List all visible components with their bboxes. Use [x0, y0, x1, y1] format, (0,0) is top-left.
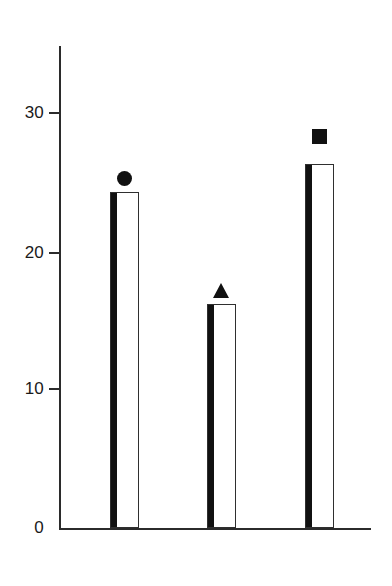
markers-layer	[0, 0, 392, 586]
bar-chart-figure: 30 20 10 0	[0, 0, 392, 586]
marker-square-icon	[312, 129, 327, 144]
plot-area: 30 20 10 0	[0, 0, 392, 586]
marker-circle-icon	[117, 171, 132, 186]
marker-triangle-icon	[213, 283, 229, 298]
